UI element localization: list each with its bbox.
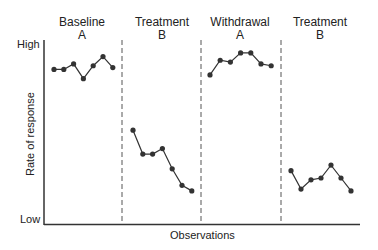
data-point xyxy=(61,67,66,72)
phase-dividers xyxy=(122,40,281,224)
data-point xyxy=(218,58,223,63)
phase-label-withdrawal: Withdrawal A xyxy=(200,16,280,42)
data-point xyxy=(170,166,175,171)
phase-code: B xyxy=(280,29,360,42)
phase-code: A xyxy=(200,29,280,42)
data-point xyxy=(51,67,56,72)
data-point xyxy=(258,61,263,66)
phase-label-treatment-1: Treatment B xyxy=(122,16,202,42)
data-point xyxy=(81,76,86,81)
data-point xyxy=(110,65,115,70)
data-point xyxy=(348,188,353,193)
data-series xyxy=(51,50,353,193)
data-point xyxy=(207,72,212,77)
data-point xyxy=(160,146,165,151)
data-point xyxy=(189,188,194,193)
data-point xyxy=(238,50,243,55)
data-point xyxy=(179,183,184,188)
phase-label-treatment-2: Treatment B xyxy=(280,16,360,42)
data-point xyxy=(248,50,253,55)
data-point xyxy=(338,175,343,180)
y-tick-high: High xyxy=(17,38,40,50)
data-point xyxy=(328,163,333,168)
data-point xyxy=(130,128,135,133)
data-point xyxy=(71,61,76,66)
y-axis-title: Rate of response xyxy=(24,92,36,176)
data-point xyxy=(269,63,274,68)
data-point xyxy=(91,63,96,68)
data-point xyxy=(308,177,313,182)
x-axis-title: Observations xyxy=(170,229,235,241)
data-point xyxy=(150,151,155,156)
data-point xyxy=(288,168,293,173)
data-point xyxy=(318,175,323,180)
phase-label-baseline: Baseline A xyxy=(42,16,122,42)
phase-code: B xyxy=(122,29,202,42)
series-line-treatment-2 xyxy=(133,130,192,191)
data-point xyxy=(100,54,105,59)
phase-code: A xyxy=(42,29,122,42)
data-point xyxy=(140,151,145,156)
data-point xyxy=(228,59,233,64)
data-point xyxy=(298,186,303,191)
y-tick-low: Low xyxy=(20,213,40,225)
